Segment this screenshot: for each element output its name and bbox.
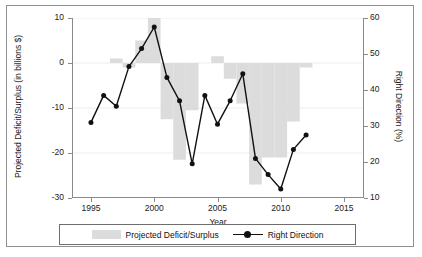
- bar: [135, 41, 148, 64]
- bar: [186, 63, 199, 110]
- data-point-marker: [101, 93, 106, 98]
- x-axis-tick: [154, 198, 155, 202]
- y-axis-tick-label: -10: [28, 103, 64, 112]
- y-axis-tick-label: 0: [28, 58, 64, 67]
- right-axis-spine: [363, 18, 364, 198]
- x-axis-tick-label: 2000: [136, 204, 172, 213]
- chart-figure: 100-10-20-306050403020101995200020052010…: [0, 0, 422, 257]
- data-point-marker: [228, 98, 233, 103]
- y-axis-tick: [68, 63, 72, 64]
- x-axis-tick: [218, 198, 219, 202]
- y-axis-tick: [68, 198, 72, 199]
- y2-axis-tick-label: 50: [370, 49, 379, 58]
- x-axis-tick-label: 2015: [326, 204, 362, 213]
- data-point-marker: [215, 122, 220, 127]
- data-point-marker: [139, 46, 144, 51]
- data-point-marker: [202, 93, 207, 98]
- y-axis-tick-label: -20: [28, 148, 64, 157]
- y2-axis-tick: [364, 90, 368, 91]
- x-axis-tick-label: 2005: [200, 204, 236, 213]
- data-point-marker: [266, 172, 271, 177]
- chart-legend: Projected Deficit/Surplus Right Directio…: [59, 224, 356, 245]
- data-point-marker: [177, 98, 182, 103]
- y-axis-tick: [68, 153, 72, 154]
- y2-axis-tick: [364, 198, 368, 199]
- y2-axis-tick-label: 30: [370, 121, 379, 130]
- data-point-marker: [88, 120, 93, 125]
- y-axis-tick-label: -30: [28, 193, 64, 202]
- legend-label-bar: Projected Deficit/Surplus: [126, 230, 219, 240]
- bar: [224, 63, 237, 79]
- data-point-marker: [190, 161, 195, 166]
- bar: [110, 59, 123, 64]
- bar-series-projected-deficit-surplus: [110, 18, 312, 185]
- bar: [173, 63, 186, 160]
- legend-bar-swatch-icon: [92, 230, 121, 239]
- x-axis-tick: [281, 198, 282, 202]
- bar: [287, 63, 300, 122]
- x-axis-tick-label: 2010: [263, 204, 299, 213]
- bar: [161, 63, 174, 119]
- legend-label-line: Right Direction: [268, 230, 324, 240]
- data-point-marker: [164, 75, 169, 80]
- data-point-marker: [240, 71, 245, 76]
- bar: [300, 63, 313, 68]
- y2-axis-tick: [364, 18, 368, 19]
- y2-axis-tick: [364, 162, 368, 163]
- y-axis-tick: [68, 18, 72, 19]
- data-point-marker: [152, 25, 157, 30]
- data-point-marker: [278, 187, 283, 192]
- y2-axis-tick-label: 40: [370, 85, 379, 94]
- y2-axis-tick-label: 20: [370, 157, 379, 166]
- legend-entry-bar: Projected Deficit/Surplus: [92, 230, 219, 240]
- bar: [249, 63, 262, 185]
- chart-canvas: [72, 18, 363, 198]
- left-axis-spine: [72, 18, 73, 198]
- right-axis-title: Right Direction (%): [394, 27, 403, 187]
- data-point-marker: [253, 156, 258, 161]
- data-point-marker: [126, 64, 131, 69]
- legend-entry-line: Right Direction: [233, 230, 324, 240]
- y-axis-tick-label: 10: [28, 13, 64, 22]
- plot-wrapper: 100-10-20-306050403020101995200020052010…: [0, 0, 422, 257]
- x-axis-tick: [344, 198, 345, 202]
- bar: [274, 63, 287, 158]
- data-point-marker: [291, 147, 296, 152]
- y2-axis-tick: [364, 54, 368, 55]
- x-axis-tick: [91, 198, 92, 202]
- legend-line-swatch-icon: [233, 230, 263, 239]
- y2-axis-tick: [364, 126, 368, 127]
- y-axis-tick: [68, 108, 72, 109]
- bar: [211, 56, 224, 63]
- y2-axis-tick-label: 10: [370, 193, 379, 202]
- x-axis-tick-label: 1995: [73, 204, 109, 213]
- left-axis-title: Projected Deficit/Surplus (in billions $…: [14, 27, 23, 187]
- data-point-marker: [114, 104, 119, 109]
- plot-area: [72, 18, 363, 198]
- bar: [262, 63, 275, 158]
- data-point-marker: [304, 133, 309, 138]
- y2-axis-tick-label: 60: [370, 13, 379, 22]
